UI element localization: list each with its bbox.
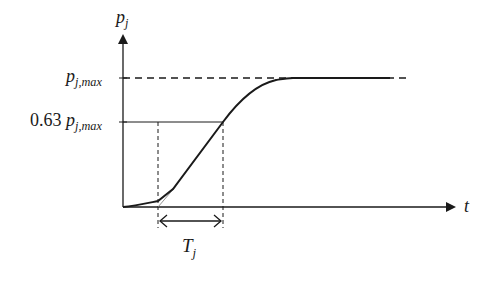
- time-constant-level-label: 0.63 pj,max: [30, 111, 102, 129]
- response-curve: [123, 78, 390, 207]
- y-axis-label: pj: [116, 8, 128, 26]
- level-label-sub: j,max: [75, 119, 102, 133]
- x-axis-label: t: [464, 197, 469, 215]
- level-label-main: p: [66, 110, 75, 130]
- time-constant-label: Tj: [182, 236, 196, 255]
- x-axis-label-text: t: [464, 196, 469, 216]
- diagram-canvas: [0, 0, 490, 284]
- level-coefficient: 0.63: [30, 110, 62, 130]
- step-response-diagram: pj pj,max 0.63 pj,max t Tj: [0, 0, 490, 284]
- time-constant-label-main: T: [182, 235, 193, 256]
- max-label-sub: j,max: [75, 75, 102, 89]
- time-constant-label-sub: j: [193, 245, 197, 260]
- y-axis-label-sub: j: [125, 16, 128, 30]
- y-axis-label-main: p: [116, 7, 125, 27]
- max-label-main: p: [66, 66, 75, 86]
- max-level-label: pj,max: [66, 67, 102, 85]
